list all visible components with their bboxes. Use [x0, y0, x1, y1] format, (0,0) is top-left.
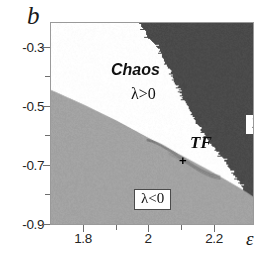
y-axis-label: b	[27, 2, 40, 30]
tf-point-marker: +	[179, 154, 187, 167]
plot-area: Chaos λ>0 TF + λ<0 λ<0	[50, 22, 254, 225]
x-tick-label-3: 2.2	[194, 231, 234, 246]
y-tick-major-3	[43, 165, 50, 166]
region-label-chaos: Chaos	[111, 61, 160, 79]
x-tick-minor-1	[116, 225, 117, 230]
x-tick-major-3	[214, 225, 215, 232]
y-tick-major-2	[43, 106, 50, 107]
region-label-lambda-positive: λ>0	[131, 85, 156, 103]
x-tick-major-1	[83, 225, 84, 232]
region-label-lambda-negative-left: λ<0	[134, 189, 171, 210]
y-tick-major-1	[43, 47, 50, 48]
figure-phase-diagram: b ε -0.3 -0.5 -0.7 -0.9 1.8 2 2.2 Chaos …	[0, 0, 274, 267]
y-tick-label-2: -0.5	[4, 99, 44, 114]
region-label-lambda-negative-right: λ<0	[245, 114, 254, 135]
x-tick-major-2	[148, 225, 149, 232]
y-tick-major-4	[43, 224, 50, 225]
y-tick-label-1: -0.3	[4, 40, 44, 55]
tf-point-label: TF	[190, 133, 212, 153]
x-axis-label: ε	[246, 228, 254, 250]
x-tick-minor-2	[181, 225, 182, 230]
y-tick-label-4: -0.9	[4, 217, 44, 232]
y-tick-label-3: -0.7	[4, 158, 44, 173]
x-tick-label-1: 1.8	[63, 231, 103, 246]
x-tick-label-2: 2	[128, 231, 168, 246]
